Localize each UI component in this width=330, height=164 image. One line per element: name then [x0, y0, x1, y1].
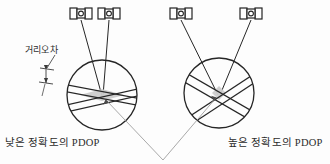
callout-leader-lines [107, 99, 215, 160]
range-error-indicator [39, 55, 55, 96]
satellite-icon-left-1 [70, 8, 92, 19]
circle-low-accuracy [62, 60, 142, 130]
label-low-accuracy-pdop: 낮은 정확도의 PDOP [5, 134, 100, 149]
satellite-icon-right-1 [170, 8, 192, 19]
satellite-icon-right-2 [240, 8, 262, 19]
label-high-accuracy-pdop: 높은 정확도의 PDOP [228, 134, 323, 149]
satellite-icon-left-2 [98, 8, 120, 19]
signal-paths-low-accuracy [81, 20, 109, 96]
label-range-error: 거리오차 [25, 43, 58, 56]
pdop-diagram: 거리오차 낮은 정확도의 PDOP 높은 정확도의 PDOP [0, 0, 330, 164]
uncertainty-region-low [80, 89, 124, 101]
circle-high-accuracy [181, 58, 257, 131]
